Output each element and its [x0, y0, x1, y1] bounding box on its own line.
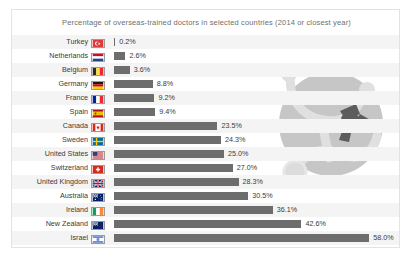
flag-ireland-icon — [91, 207, 105, 216]
country-label: United States — [12, 147, 88, 161]
flag-united-kingdom-icon — [91, 179, 105, 188]
country-label: Ireland — [12, 203, 88, 217]
country-label: Australia — [12, 189, 88, 203]
bar — [114, 52, 125, 60]
bar-value-label: 23.5% — [221, 119, 241, 133]
bar-value-label: 27.0% — [237, 161, 257, 175]
table-row: Belgium3.6% — [12, 63, 400, 77]
bar — [114, 38, 115, 46]
table-row: Canada23.5% — [12, 119, 400, 133]
bar-value-label: 9.2% — [158, 91, 174, 105]
flag-united-states-icon — [91, 151, 105, 160]
country-label: Turkey — [12, 35, 88, 49]
table-row: Netherlands2.6% — [12, 49, 400, 63]
country-label: France — [12, 91, 88, 105]
country-label: Israel — [12, 231, 88, 245]
bar-value-label: 42.6% — [305, 217, 325, 231]
bar — [114, 220, 301, 228]
flag-new-zealand-icon — [91, 221, 105, 230]
table-row: Switzerland27.0% — [12, 161, 400, 175]
bar — [114, 206, 273, 214]
bar — [114, 136, 221, 144]
bar — [114, 192, 248, 200]
country-label: Sweden — [12, 133, 88, 147]
bar-value-label: 9.4% — [159, 105, 175, 119]
flag-turkey-icon — [91, 39, 105, 48]
flag-canada-icon — [91, 123, 105, 132]
bar-value-label: 8.8% — [157, 77, 173, 91]
table-row: Australia30.5% — [12, 189, 400, 203]
country-label: United Kingdom — [12, 175, 88, 189]
bar-value-label: 28.3% — [243, 175, 263, 189]
bar-value-label: 2.6% — [129, 49, 145, 63]
table-row: Sweden24.3% — [12, 133, 400, 147]
table-row: France9.2% — [12, 91, 400, 105]
flag-switzerland-icon — [91, 165, 105, 174]
bar-value-label: 24.3% — [225, 133, 245, 147]
table-row: Ireland36.1% — [12, 203, 400, 217]
country-label: New Zealand — [12, 217, 88, 231]
flag-spain-icon — [91, 109, 105, 118]
table-row: Turkey0.2% — [12, 35, 400, 49]
flag-netherlands-icon — [91, 53, 105, 62]
bar — [114, 150, 224, 158]
bar — [114, 234, 369, 242]
country-label: Belgium — [12, 63, 88, 77]
table-row: Spain9.4% — [12, 105, 400, 119]
bar — [114, 80, 153, 88]
table-row: New Zealand42.6% — [12, 217, 400, 231]
country-label: Netherlands — [12, 49, 88, 63]
chart-title: Percentage of overseas-trained doctors i… — [12, 18, 400, 27]
country-label: Germany — [12, 77, 88, 91]
bar-value-label: 25.0% — [228, 147, 248, 161]
bar-value-label: 58.0% — [373, 231, 393, 245]
bar — [114, 178, 239, 186]
bar-value-label: 0.2% — [119, 35, 135, 49]
chart-card: Percentage of overseas-trained doctors i… — [11, 9, 400, 248]
country-label: Canada — [12, 119, 88, 133]
flag-germany-icon — [91, 81, 105, 90]
bar — [114, 66, 130, 74]
flag-belgium-icon — [91, 67, 105, 76]
country-label: Spain — [12, 105, 88, 119]
bar-value-label: 30.5% — [252, 189, 272, 203]
bar-chart-plot: Turkey0.2%Netherlands2.6%Belgium3.6%Germ… — [12, 35, 400, 245]
flag-israel-icon — [91, 235, 105, 244]
table-row: United States25.0% — [12, 147, 400, 161]
flag-australia-icon — [91, 193, 105, 202]
bar-value-label: 36.1% — [277, 203, 297, 217]
bar — [114, 122, 217, 130]
table-row: Israel58.0% — [12, 231, 400, 245]
bar — [114, 108, 155, 116]
country-label: Switzerland — [12, 161, 88, 175]
flag-france-icon — [91, 95, 105, 104]
table-row: Germany8.8% — [12, 77, 400, 91]
table-row: United Kingdom28.3% — [12, 175, 400, 189]
bar — [114, 164, 233, 172]
bar-value-label: 3.6% — [134, 63, 150, 77]
bar — [114, 94, 154, 102]
flag-sweden-icon — [91, 137, 105, 146]
